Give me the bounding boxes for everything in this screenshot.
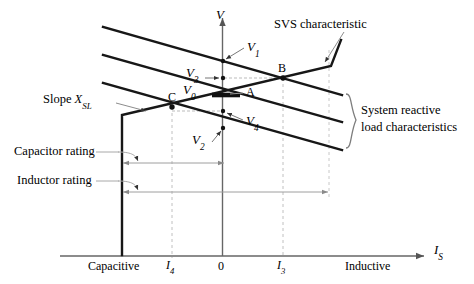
svs-characteristic-label: SVS characteristic (274, 18, 367, 31)
reference-lines (122, 50, 329, 258)
slope-leader-line (116, 103, 146, 111)
axis-region-inductive: Inductive (345, 260, 390, 272)
axis-region-capacitive: Capacitive (88, 260, 139, 272)
voltage-label-v1-sub: 1 (255, 49, 260, 59)
point-b-dot (280, 75, 285, 80)
marker-v3-dot (221, 76, 225, 80)
leader-v2 (212, 131, 221, 142)
x-axis-label: IS (434, 243, 443, 260)
voltage-label-v0: V0 (183, 83, 196, 100)
capacitor-rating-label: Capacitor rating (14, 145, 95, 158)
diagram-canvas (0, 0, 474, 284)
system-load-characteristics-label-line2: load characteristics (361, 121, 457, 134)
capacitor-rating-dimension (96, 152, 224, 163)
voltage-label-v1: V1 (247, 40, 260, 57)
marker-v2-dot (221, 126, 225, 130)
system-load-characteristics-label-line1: System reactive (361, 104, 441, 117)
tick-label-i4: I4 (166, 259, 174, 274)
svs-polyline (122, 40, 341, 255)
inductor-rating-dimension (96, 181, 328, 192)
system-load-brace (346, 94, 356, 148)
voltage-label-v3: V3 (186, 66, 199, 83)
leader-v1 (226, 48, 244, 59)
svs-characteristic-curve (122, 40, 341, 255)
slope-label: Slope XSL (43, 93, 92, 109)
y-axis-label: V (216, 8, 224, 21)
voltage-label-v2-sub: 2 (200, 142, 205, 152)
slope-symbol-sub: SL (82, 101, 92, 111)
marker-v1-dot (221, 59, 225, 63)
svs-characteristic-figure: V IS 0 Capacitive Inductive I4 I3 V1 V3 … (0, 0, 474, 284)
voltage-label-v4: V4 (246, 114, 259, 131)
voltage-label-v4-sub: 4 (254, 123, 259, 133)
axes (60, 18, 424, 256)
voltage-label-v0-sub: 0 (191, 92, 196, 102)
x-axis-label-sub: S (438, 252, 443, 262)
operating-point-label-c: C (168, 91, 176, 103)
operating-point-label-a: A (246, 86, 255, 98)
tick-label-i3: I3 (277, 259, 285, 274)
point-c-dot (169, 104, 174, 109)
tick-label-i3-sub: 3 (281, 266, 285, 276)
inductor-rating-label: Inductor rating (17, 174, 92, 187)
marker-v4-dot (221, 109, 225, 113)
origin-label: 0 (218, 260, 224, 272)
operating-point-label-b: B (278, 62, 286, 74)
voltage-label-v2: V2 (192, 133, 205, 150)
tick-label-i4-sub: 4 (170, 266, 174, 276)
slope-leader (116, 103, 146, 111)
brace-path (346, 94, 356, 148)
